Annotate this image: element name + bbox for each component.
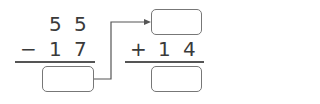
right-bottom-tens: 1	[158, 39, 171, 59]
right-answer-box[interactable]	[151, 66, 202, 92]
right-bottom-ones: 4	[183, 39, 196, 59]
right-top-answer-box[interactable]	[151, 9, 202, 35]
right-operator: +	[130, 39, 147, 59]
arrow-head-icon	[144, 19, 151, 25]
right-sum-line	[125, 61, 204, 63]
